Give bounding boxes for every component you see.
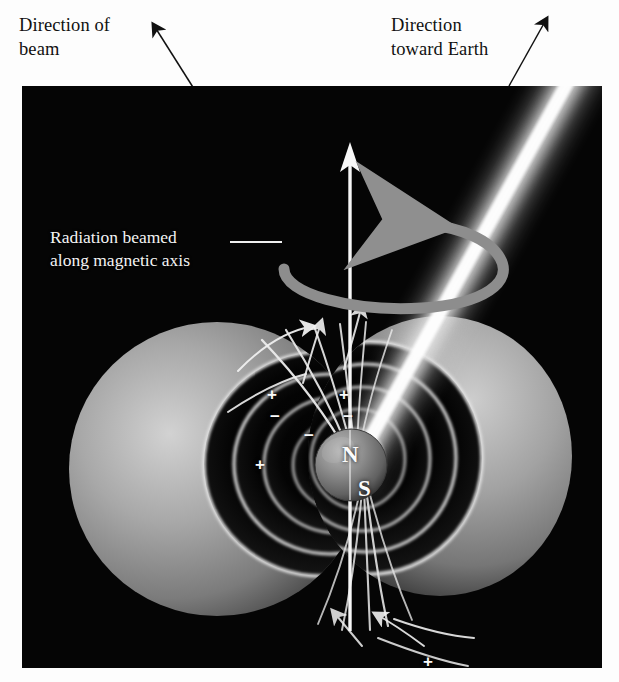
illustration-graphics bbox=[22, 86, 602, 668]
star-north-pole-label: N bbox=[342, 442, 359, 468]
figure-root: Direction of beam Direction toward Earth bbox=[0, 0, 619, 682]
caption-direction-of-beam: Direction of beam bbox=[19, 14, 110, 61]
caption-radiation-beamed: Radiation beamed along magnetic axis bbox=[50, 226, 190, 272]
positive-charge-icon: + bbox=[339, 386, 349, 403]
star-south-pole-label: S bbox=[358, 476, 371, 502]
positive-charge-icon: + bbox=[423, 653, 433, 668]
arrow-direction-of-beam bbox=[153, 24, 196, 92]
negative-charge-icon: − bbox=[382, 664, 392, 668]
positive-charge-icon: + bbox=[255, 456, 265, 473]
negative-charge-icon: − bbox=[304, 427, 314, 444]
illustration-panel: Radiation beamed along magnetic axis N S… bbox=[22, 86, 602, 668]
negative-charge-icon: − bbox=[343, 408, 353, 425]
particle-trajectory-arcs-lower bbox=[332, 610, 474, 666]
arrow-direction-toward-earth bbox=[509, 18, 547, 86]
leader-line-radiation bbox=[230, 241, 282, 243]
caption-direction-toward-earth: Direction toward Earth bbox=[391, 14, 488, 61]
positive-charge-icon: + bbox=[267, 386, 277, 403]
negative-charge-icon: − bbox=[270, 408, 280, 425]
